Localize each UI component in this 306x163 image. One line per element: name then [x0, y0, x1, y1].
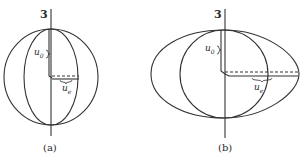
ue-subscript: e — [68, 88, 72, 95]
u0-brace — [217, 46, 221, 54]
u0-subscript: 0 — [40, 52, 44, 59]
ue-label: ue — [62, 84, 71, 95]
u0-label: u0 — [205, 44, 215, 55]
sphere-outline — [180, 30, 268, 118]
u0-subscript: 0 — [211, 48, 215, 55]
diagram-canvas — [0, 0, 306, 163]
caption-b: (b) — [218, 143, 232, 153]
ue-radius-line — [225, 74, 298, 76]
axis-label-3: 3 — [40, 9, 48, 20]
u0-radius-line — [221, 30, 225, 74]
ue-label: ue — [254, 83, 263, 94]
panel-a-shapes — [4, 9, 98, 136]
ue-subscript: e — [260, 87, 264, 94]
panel-b-shapes — [151, 9, 299, 138]
caption-a: (a) — [43, 143, 57, 153]
u0-label: u0 — [34, 48, 44, 59]
axis-label-3: 3 — [214, 9, 222, 20]
